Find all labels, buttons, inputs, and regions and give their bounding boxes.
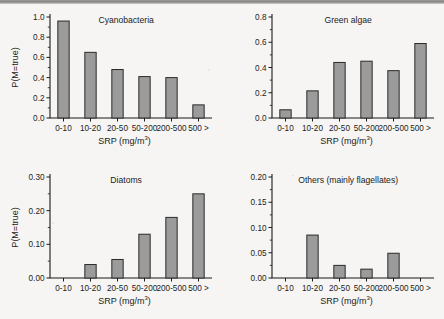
- x-tick-label: 50-200: [132, 124, 158, 133]
- bar: [139, 234, 150, 278]
- y-axis-ticks: 0.00.20.40.60.8: [255, 13, 272, 123]
- bar: [112, 259, 123, 278]
- bar: [166, 78, 177, 118]
- panel-title: Diatoms: [110, 175, 142, 185]
- y-tick-label: 0.6: [255, 38, 267, 47]
- bar: [415, 44, 426, 118]
- x-tick-label: 20-50: [329, 283, 350, 292]
- x-tick-label: 50-200: [132, 283, 158, 292]
- bar: [334, 265, 345, 278]
- x-axis-title: SRP (mg/m3): [98, 295, 151, 306]
- axes: [272, 174, 434, 278]
- y-tick-label: 0.05: [251, 248, 267, 257]
- panel-title: Green algae: [324, 15, 372, 25]
- x-axis-ticks: 0-1010-2020-5050-200200-500500 >: [55, 278, 209, 293]
- bar: [85, 264, 96, 277]
- x-tick-label: 50-200: [354, 124, 380, 133]
- y-tick-label: 0.8: [255, 13, 267, 22]
- bar: [280, 110, 291, 118]
- y-tick-label: 0.2: [255, 89, 267, 98]
- y-axis-title: P(M=true): [10, 207, 20, 247]
- bar: [334, 62, 345, 118]
- bar: [193, 193, 204, 277]
- y-tick-label: 1.0: [33, 13, 45, 22]
- x-tick-label: 500 >: [188, 124, 209, 133]
- bar-series: [307, 235, 399, 278]
- y-axis-ticks: 0.000.050.100.150.20: [251, 173, 272, 283]
- bar: [193, 105, 204, 118]
- x-tick-label: 500 >: [410, 283, 431, 292]
- x-tick-label: 10-20: [302, 124, 323, 133]
- figure-panel-grid: 0.00.20.40.60.81.00-1010-2020-5050-20020…: [0, 0, 444, 319]
- panel-title: Others (mainly flagellates): [298, 175, 398, 185]
- axes: [50, 174, 212, 278]
- x-axis-ticks: 0-1010-2020-5050-200200-500500 >: [277, 278, 431, 293]
- x-tick-label: 200-500: [378, 283, 408, 292]
- bar: [58, 21, 69, 118]
- y-tick-label: 0.0: [255, 114, 267, 123]
- bar: [388, 253, 399, 278]
- bar: [388, 71, 399, 118]
- y-tick-label: 0.00: [251, 274, 267, 283]
- chart-panel-others: 0.000.050.100.150.200-1010-2020-5050-200…: [222, 160, 444, 319]
- y-tick-label: 0.30: [29, 173, 45, 182]
- y-tick-label: 0.15: [251, 198, 267, 207]
- y-tick-label: 0.4: [33, 74, 45, 83]
- bar: [112, 70, 123, 118]
- x-tick-label: 10-20: [302, 283, 323, 292]
- y-tick-label: 0.2: [33, 94, 45, 103]
- chart-panel-green-algae: 0.00.20.40.60.80-1010-2020-5050-200200-5…: [222, 0, 444, 160]
- bar: [361, 61, 372, 118]
- y-tick-label: 0.20: [251, 173, 267, 182]
- x-tick-label: 50-200: [354, 283, 380, 292]
- x-axis-ticks: 0-1010-2020-5050-200200-500500 >: [277, 118, 431, 133]
- x-tick-label: 0-10: [277, 124, 294, 133]
- bar: [307, 91, 318, 118]
- y-tick-label: 0.00: [29, 274, 45, 283]
- panel-title: Cyanobacteria: [98, 15, 154, 25]
- x-tick-label: 20-50: [107, 124, 128, 133]
- y-tick-label: 0.8: [33, 33, 45, 42]
- y-axis-ticks: 0.000.100.200.30: [29, 173, 50, 283]
- bar: [166, 217, 177, 278]
- bar-series: [280, 44, 426, 118]
- y-tick-label: 0.0: [33, 114, 45, 123]
- x-axis-ticks: 0-1010-2020-5050-200200-500500 >: [55, 118, 209, 133]
- bar-series: [85, 193, 204, 277]
- bar: [361, 269, 372, 278]
- x-tick-label: 0-10: [55, 283, 72, 292]
- axes: [50, 14, 212, 118]
- bar: [85, 52, 96, 118]
- chart-panel-diatoms: 0.000.100.200.300-1010-2020-5050-200200-…: [0, 160, 222, 319]
- x-axis-title: SRP (mg/m3): [320, 135, 373, 146]
- bar-series: [58, 21, 204, 118]
- axes: [272, 14, 434, 118]
- x-tick-label: 20-50: [329, 124, 350, 133]
- y-tick-label: 0.4: [255, 64, 267, 73]
- x-tick-label: 200-500: [156, 124, 186, 133]
- x-tick-label: 10-20: [80, 283, 101, 292]
- bar: [307, 235, 318, 278]
- x-tick-label: 0-10: [277, 283, 294, 292]
- chart-panel-cyanobacteria: 0.00.20.40.60.81.00-1010-2020-5050-20020…: [0, 0, 222, 160]
- y-tick-label: 0.20: [29, 206, 45, 215]
- y-tick-label: 0.10: [29, 240, 45, 249]
- x-tick-label: 200-500: [156, 283, 186, 292]
- y-tick-label: 0.6: [33, 53, 45, 62]
- x-axis-title: SRP (mg/m3): [98, 135, 151, 146]
- x-tick-label: 0-10: [55, 124, 72, 133]
- y-tick-label: 0.10: [251, 223, 267, 232]
- x-tick-label: 500 >: [410, 124, 431, 133]
- y-axis-title: P(M=true): [10, 47, 20, 87]
- x-tick-label: 500 >: [188, 283, 209, 292]
- y-axis-ticks: 0.00.20.40.60.81.0: [33, 13, 50, 123]
- bar: [139, 77, 150, 118]
- x-tick-label: 20-50: [107, 283, 128, 292]
- x-tick-label: 200-500: [378, 124, 408, 133]
- x-axis-title: SRP (mg/m3): [320, 295, 373, 306]
- x-tick-label: 10-20: [80, 124, 101, 133]
